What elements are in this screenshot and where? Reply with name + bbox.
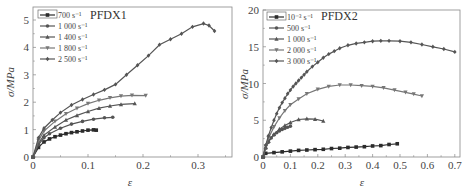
y-tick-label: 15 — [248, 41, 260, 53]
y-tick-label: 0 — [24, 151, 30, 163]
diamond-marker-icon — [431, 45, 435, 49]
y-tick-label: 4 — [24, 41, 30, 53]
series-0 — [261, 142, 399, 159]
square-marker-icon — [59, 133, 63, 137]
series-4 — [31, 21, 216, 159]
diamond-marker-icon — [92, 92, 96, 96]
legend: 700 s⁻¹1 000 s⁻¹1 400 s⁻¹1 800 s⁻¹2 500 … — [38, 10, 88, 64]
diamond-marker-icon — [202, 21, 206, 25]
circle-marker-icon — [46, 24, 50, 28]
legend-entry-label: 1 000 s⁻¹ — [287, 35, 317, 44]
diamond-marker-icon — [363, 40, 367, 44]
diamond-marker-icon — [103, 88, 107, 92]
circle-marker-icon — [70, 122, 74, 126]
circle-marker-icon — [92, 117, 96, 121]
panel-title: PFDX2 — [321, 9, 358, 23]
x-tick-label: 0 — [260, 159, 266, 171]
circle-marker-icon — [289, 124, 293, 128]
diamond-marker-icon — [332, 49, 336, 53]
square-marker-icon — [338, 146, 342, 150]
y-tick-label: 1 — [24, 124, 30, 136]
square-marker-icon — [354, 145, 358, 149]
square-marker-icon — [313, 148, 317, 152]
legend-entry-label: 2 000 s⁻¹ — [287, 46, 317, 55]
legend-entry-label: 1 000 s⁻¹ — [58, 22, 88, 31]
x-tick-label: 0.7 — [448, 159, 462, 171]
square-marker-icon — [363, 145, 367, 149]
y-tick-label: 5 — [24, 14, 30, 26]
legend-entry-label: 10⁻³ s⁻¹ — [287, 13, 314, 22]
square-marker-icon — [297, 149, 301, 153]
y-axis-label: σ/MPa — [238, 69, 250, 99]
square-marker-icon — [64, 132, 68, 136]
legend-entry-label: 2 500 s⁻¹ — [58, 55, 88, 64]
square-marker-icon — [81, 129, 85, 133]
diamond-marker-icon — [387, 39, 391, 43]
square-marker-icon — [280, 150, 284, 154]
diamond-marker-icon — [81, 97, 85, 101]
y-tick-label: 20 — [248, 4, 260, 16]
x-axis-label: ε — [360, 176, 365, 188]
y-axis-label: σ/MPa — [4, 67, 16, 97]
square-marker-icon — [86, 128, 90, 132]
x-tick-label: 0.2 — [311, 159, 325, 171]
x-tick-label: 0.5 — [393, 159, 407, 171]
diamond-marker-icon — [371, 39, 375, 43]
x-tick-label: 0.1 — [81, 159, 95, 171]
legend-entry-label: 500 s⁻¹ — [287, 24, 311, 33]
x-tick-label: 0 — [30, 159, 36, 171]
diamond-marker-icon — [409, 40, 413, 44]
series-1 — [31, 115, 114, 158]
square-marker-icon — [272, 151, 276, 155]
panel-title: PFDX1 — [90, 8, 127, 22]
legend-entry-label: 3 000 s⁻¹ — [287, 57, 317, 66]
square-marker-icon — [94, 128, 98, 132]
square-marker-icon — [346, 146, 350, 150]
diamond-marker-icon — [453, 50, 457, 54]
diamond-marker-icon — [180, 32, 184, 36]
diamond-marker-icon — [442, 47, 446, 51]
x-tick-label: 0.6 — [421, 159, 435, 171]
circle-marker-icon — [111, 115, 115, 119]
square-marker-icon — [46, 13, 50, 17]
square-marker-icon — [275, 15, 279, 19]
x-axis-label: ε — [128, 176, 133, 188]
square-marker-icon — [53, 135, 57, 139]
stress-strain-figure: 00.10.20.3012345 700 s⁻¹1 000 s⁻¹1 400 s… — [0, 0, 466, 190]
legend-entry-label: 700 s⁻¹ — [58, 11, 82, 20]
square-marker-icon — [387, 143, 391, 147]
square-marker-icon — [330, 147, 334, 151]
square-marker-icon — [305, 148, 309, 152]
square-marker-icon — [321, 147, 325, 151]
circle-marker-icon — [81, 120, 85, 124]
circle-marker-icon — [59, 126, 63, 130]
legend-entry-label: 1 400 s⁻¹ — [58, 33, 88, 42]
square-marker-icon — [42, 140, 46, 144]
legend-entry-label: 1 800 s⁻¹ — [58, 44, 88, 53]
square-marker-icon — [379, 144, 383, 148]
square-marker-icon — [371, 144, 375, 148]
legend: 10⁻³ s⁻¹500 s⁻¹1 000 s⁻¹2 000 s⁻¹3 000 s… — [267, 12, 317, 66]
x-tick-label: 0.4 — [366, 159, 380, 171]
y-tick-label: 5 — [254, 114, 260, 126]
diamond-marker-icon — [379, 39, 383, 43]
diamond-marker-icon — [420, 42, 424, 46]
data-series — [31, 21, 216, 159]
y-tick-label: 2 — [24, 96, 30, 108]
square-marker-icon — [289, 149, 293, 153]
diamond-marker-icon — [169, 37, 173, 41]
square-marker-icon — [395, 142, 399, 146]
square-marker-icon — [70, 131, 74, 135]
diamond-marker-icon — [338, 46, 342, 50]
square-marker-icon — [75, 130, 79, 134]
chart-panel-pfdx1: 00.10.20.3012345 700 s⁻¹1 000 s⁻¹1 400 s… — [4, 7, 232, 188]
y-tick-label: 3 — [24, 69, 30, 81]
chart-panel-pfdx2: 00.10.20.30.40.50.60.705101520 10⁻³ s⁻¹5… — [238, 4, 462, 188]
diamond-marker-icon — [346, 43, 350, 47]
y-tick-label: 0 — [254, 151, 260, 163]
circle-marker-icon — [103, 116, 107, 120]
x-tick-label: 0.2 — [136, 159, 150, 171]
circle-marker-icon — [275, 26, 279, 30]
diamond-marker-icon — [354, 41, 358, 45]
diamond-marker-icon — [191, 25, 195, 29]
